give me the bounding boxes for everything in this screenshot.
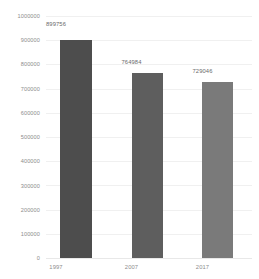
y-axis-tick-label: 500000 — [0, 134, 40, 140]
y-axis-tick-label: 800000 — [0, 61, 40, 67]
y-axis-tick-label: 600000 — [0, 110, 40, 116]
y-axis-tick-label: 0 — [0, 255, 40, 261]
bar-2017[interactable] — [202, 82, 233, 258]
y-axis-tick-label: 900000 — [0, 37, 40, 43]
y-axis-tick-label: 300000 — [0, 183, 40, 189]
gridline — [46, 16, 252, 17]
plot-area — [46, 16, 252, 258]
y-axis-tick-label: 400000 — [0, 158, 40, 164]
x-axis-tick-label-2007: 2007 — [116, 264, 147, 271]
bar-chart: 1000000 900000 800000 700000 600000 5000… — [0, 0, 259, 279]
x-axis-tick-label-1997: 1997 — [40, 264, 72, 271]
y-axis-tick-label: 1000000 — [0, 13, 40, 19]
bar-2007[interactable] — [132, 73, 163, 258]
bar-1997[interactable] — [60, 40, 92, 258]
bar-value-label-2007: 764984 — [116, 59, 147, 66]
y-axis-tick-label: 100000 — [0, 231, 40, 237]
bar-value-label-2017: 729046 — [187, 68, 218, 75]
x-axis-tick-label-2017: 2017 — [187, 264, 218, 271]
y-axis-tick-label: 200000 — [0, 207, 40, 213]
y-axis-tick-label: 700000 — [0, 86, 40, 92]
x-axis-baseline — [46, 258, 252, 259]
bar-value-label-1997: 899756 — [40, 21, 72, 28]
